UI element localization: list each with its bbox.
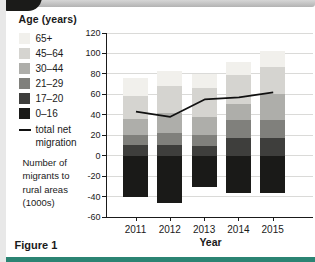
y-axis-tick-label: 40 <box>71 110 101 120</box>
net-migration-line-sample <box>19 129 31 131</box>
legend-label-65plus: 65+ <box>36 33 53 44</box>
figure-caption: Figure 1 <box>15 239 58 251</box>
legend-swatch-0-16 <box>19 108 30 119</box>
x-axis-tick <box>136 217 137 221</box>
legend-label-21-29: 21–29 <box>36 78 64 89</box>
figure-page: Age (years) 65+ 45–64 30–44 21–29 17–20 … <box>6 0 315 262</box>
y-axis-tick-label: -60 <box>71 212 101 222</box>
legend-label-17-20: 17–20 <box>36 93 64 104</box>
x-axis-tick <box>238 217 239 221</box>
y-axis-tick-label: 120 <box>71 28 101 38</box>
y-axis-tick-label: 0 <box>71 151 101 161</box>
legend-swatch-45-64 <box>19 48 30 59</box>
y-axis-tick-label: 80 <box>71 69 101 79</box>
net-migration-line <box>107 33 313 217</box>
x-axis-label-2012: 2012 <box>152 224 188 235</box>
x-axis-label-2015: 2015 <box>255 224 291 235</box>
y-axis-tick-label: 100 <box>71 48 101 58</box>
legend-label-30-44: 30–44 <box>36 63 64 74</box>
plot-area: -60-40-200204060801001202011201220132014… <box>106 33 313 218</box>
legend-swatch-17-20 <box>19 93 30 104</box>
x-axis-label-2013: 2013 <box>186 224 222 235</box>
legend-label-45-64: 45–64 <box>36 48 64 59</box>
x-axis-tick <box>273 217 274 221</box>
y-axis-tick-label: 60 <box>71 89 101 99</box>
page-corner-blob <box>6 0 42 11</box>
legend-label-0-16: 0–16 <box>36 108 58 119</box>
legend-swatch-65plus <box>19 33 30 44</box>
legend-title: Age (years) <box>19 13 77 25</box>
y-axis-tick-label: -40 <box>71 192 101 202</box>
page-bottom-accent-bar <box>6 257 315 262</box>
x-axis-tick <box>170 217 171 221</box>
legend-swatch-30-44 <box>19 63 30 74</box>
x-axis-label-2011: 2011 <box>118 224 154 235</box>
x-axis-label-2014: 2014 <box>220 224 256 235</box>
y-axis-tick-label: -20 <box>71 171 101 181</box>
x-axis-tick <box>204 217 205 221</box>
legend-swatch-21-29 <box>19 78 30 89</box>
x-axis-title: Year <box>166 236 256 248</box>
page-top-edge-strip <box>36 0 315 7</box>
y-axis-tick-label: 20 <box>71 130 101 140</box>
